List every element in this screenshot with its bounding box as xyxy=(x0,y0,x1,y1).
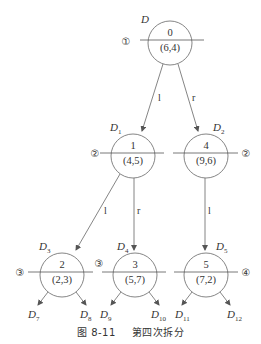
node-index: 0 xyxy=(167,27,172,38)
node-point: (4,5) xyxy=(123,155,144,167)
caption-number: 图 8-11 xyxy=(77,327,116,338)
leaf-label-sub: 11 xyxy=(183,315,190,323)
leaf-labels: D 7 D 8 D 9 D 10 D 11 D 12 xyxy=(27,308,243,323)
leaf-label-sub: 12 xyxy=(235,315,243,323)
tree-node-4: 4 (9,6) D 2 ② xyxy=(173,121,250,178)
leaf-label-sub: 7 xyxy=(36,315,40,323)
edge-label: l xyxy=(104,205,107,216)
tree-node-root: 0 (6,4) D ① xyxy=(122,13,204,65)
edge-leaf xyxy=(111,292,121,305)
node-label: D xyxy=(38,240,47,252)
node-point: (6,4) xyxy=(160,42,181,54)
node-index: 5 xyxy=(203,259,208,270)
edge-leaf xyxy=(220,292,230,305)
node-point: (2,3) xyxy=(52,274,73,286)
step-marker: ③ xyxy=(16,267,25,278)
edge-leaf xyxy=(38,292,48,305)
node-label-sub: 3 xyxy=(47,247,51,255)
leaf-label: D xyxy=(150,308,159,320)
node-label: D xyxy=(109,121,118,133)
leaf-label: D xyxy=(99,308,108,320)
node-point: (9,6) xyxy=(196,155,217,167)
edge-label: r xyxy=(192,92,196,103)
edge-label: r xyxy=(137,205,141,216)
node-index: 3 xyxy=(132,259,137,270)
node-label: D xyxy=(212,121,221,133)
figure-caption: 图 8-11 第四次拆分 xyxy=(0,324,261,339)
leaf-label: D xyxy=(27,308,36,320)
leaf-label-sub: 8 xyxy=(88,315,92,323)
node-label-sub: 5 xyxy=(224,247,228,255)
leaf-label-sub: 10 xyxy=(159,315,167,323)
edge-leaf xyxy=(76,292,86,305)
edge-n1-left xyxy=(76,174,120,250)
node-point: (7,2) xyxy=(196,274,217,286)
step-marker: ④ xyxy=(242,267,251,278)
caption-title: 第四次拆分 xyxy=(132,327,185,338)
step-marker: ① xyxy=(122,36,131,47)
tree-node-1: 1 (4,5) D 1 ② xyxy=(91,121,164,178)
step-marker: ② xyxy=(242,148,251,159)
node-label: D xyxy=(116,240,125,252)
leaf-label: D xyxy=(226,308,235,320)
node-index: 2 xyxy=(59,259,64,270)
node-label: D xyxy=(215,240,224,252)
node-index: 1 xyxy=(130,140,135,151)
edge-leaf xyxy=(149,292,159,305)
leaf-label-sub: 9 xyxy=(108,315,112,323)
leaf-label: D xyxy=(174,308,183,320)
leaf-label: D xyxy=(79,308,88,320)
edge-label: l xyxy=(158,92,161,103)
node-label-sub: 4 xyxy=(125,247,129,255)
tree-node-3: 3 (5,7) D 4 ③ xyxy=(95,240,166,297)
node-label: D xyxy=(140,13,149,25)
tree-node-2: 2 (2,3) D 3 ③ xyxy=(16,240,93,297)
node-index: 4 xyxy=(203,140,209,151)
step-marker: ③ xyxy=(95,258,104,269)
edge-label: l xyxy=(208,205,211,216)
step-marker: ② xyxy=(91,148,100,159)
node-label-sub: 1 xyxy=(118,128,122,136)
tree-node-5: 5 (7,2) D 5 ④ xyxy=(174,240,250,297)
node-label-sub: 2 xyxy=(221,128,225,136)
kd-tree-diagram: 0 (6,4) D ① l r 1 (4,5) D 1 ② 4 (9,6) D … xyxy=(0,0,261,344)
edge-leaf xyxy=(182,292,192,305)
node-point: (5,7) xyxy=(125,274,146,286)
